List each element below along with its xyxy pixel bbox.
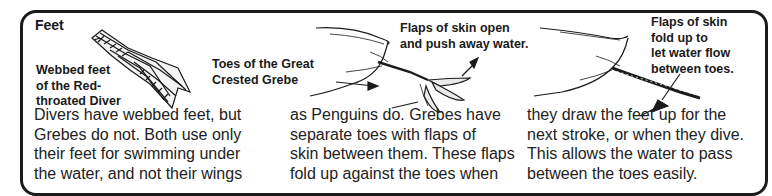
caption-line: Flaps of skin open [400,21,529,37]
caption-line: Toes of the Great [212,57,314,73]
caption-line: fold up to [651,31,734,47]
body-line: the water, and not their wings [34,164,242,184]
body-line: fold up against the toes when [290,164,515,184]
body-line: This allows the water to pass [527,144,744,164]
caption-flaps-fold: Flaps of skin fold up to let water flow … [651,15,734,77]
body-column-2: as Penguins do. Grebes have separate toe… [290,105,515,183]
caption-grebe-toes: Toes of the Great Crested Grebe [212,57,314,88]
body-column-1: Divers have webbed feet, but Grebes do n… [34,105,242,183]
caption-line: Flaps of skin [651,15,734,31]
caption-flaps-open: Flaps of skin open and push away water. [400,21,529,52]
section-title: Feet [35,17,64,33]
body-line: Divers have webbed feet, but [34,105,242,125]
body-line: between the toes easily. [527,164,744,184]
caption-line: of the Red- [36,79,121,95]
body-line: Grebes do not. Both use only [34,125,242,145]
body-line: as Penguins do. Grebes have [290,105,515,125]
caption-line: let water flow [651,46,734,62]
caption-diver-feet: Webbed feet of the Red- throated Diver [36,63,121,110]
body-line: skin between them. These flaps [290,144,515,164]
body-line: next stroke, or when they dive. [527,125,744,145]
body-line: separate toes with flaps of [290,125,515,145]
caption-line: between toes. [651,62,734,78]
caption-line: Webbed feet [36,63,121,79]
body-line: their feet for swimming under [34,144,242,164]
caption-line: Crested Grebe [212,73,314,89]
caption-line: and push away water. [400,37,529,53]
body-line: they draw the feet up for the [527,105,744,125]
body-column-3: they draw the feet up for the next strok… [527,105,744,183]
